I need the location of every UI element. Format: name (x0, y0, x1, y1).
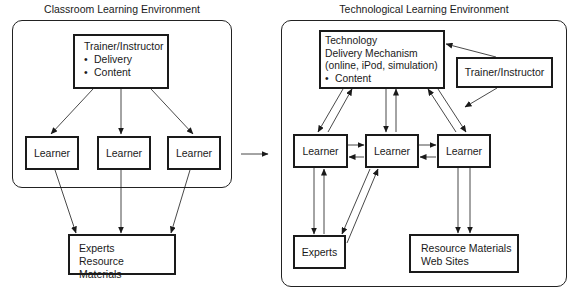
arrow (51, 89, 93, 134)
connector-arrows (0, 0, 575, 296)
